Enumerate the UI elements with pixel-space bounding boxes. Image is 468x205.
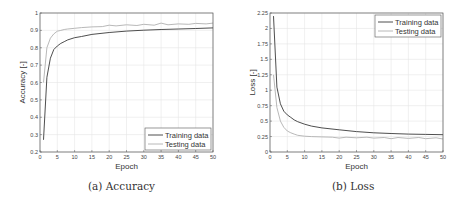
svg-text:0.75: 0.75: [257, 103, 268, 109]
svg-text:45: 45: [423, 154, 429, 160]
svg-text:40: 40: [405, 154, 411, 160]
x-axis-label: Epoch: [345, 162, 368, 171]
svg-text:0.6: 0.6: [30, 80, 38, 86]
svg-text:1.75: 1.75: [257, 41, 268, 47]
legend-entry: Testing data: [395, 27, 436, 36]
legend-entry: Training data: [165, 131, 209, 140]
svg-text:5: 5: [286, 154, 289, 160]
legend-entry: Training data: [395, 18, 439, 27]
svg-text:0: 0: [265, 149, 268, 155]
svg-text:30: 30: [141, 154, 147, 160]
svg-text:30: 30: [371, 154, 377, 160]
legend-entry: Testing data: [165, 140, 206, 149]
svg-text:0.2: 0.2: [30, 149, 38, 155]
svg-text:2.25: 2.25: [257, 10, 268, 16]
svg-text:1.5: 1.5: [260, 56, 268, 62]
accuracy-plot-area: 051015202530354045500.20.30.40.50.60.70.…: [18, 10, 216, 171]
y-axis-label: Accuracy [-]: [18, 61, 27, 103]
x-axis-label: Epoch: [115, 162, 138, 171]
svg-text:45: 45: [193, 154, 199, 160]
svg-text:10: 10: [302, 154, 308, 160]
svg-text:1: 1: [265, 87, 268, 93]
svg-text:0.9: 0.9: [30, 27, 38, 33]
svg-text:1.25: 1.25: [257, 72, 268, 78]
svg-text:1: 1: [35, 10, 38, 16]
svg-text:20: 20: [106, 154, 112, 160]
svg-text:0.4: 0.4: [30, 114, 38, 120]
svg-text:15: 15: [89, 154, 95, 160]
svg-text:10: 10: [72, 154, 78, 160]
svg-text:2: 2: [265, 25, 268, 31]
svg-text:35: 35: [388, 154, 394, 160]
svg-text:0.25: 0.25: [257, 134, 268, 140]
svg-text:0.8: 0.8: [30, 45, 38, 51]
legend: Training dataTesting data: [145, 128, 211, 150]
svg-text:0.3: 0.3: [30, 132, 38, 138]
loss-chart-panel: 0510152025303540455000.250.50.7511.251.5…: [234, 0, 468, 205]
svg-text:0.5: 0.5: [260, 118, 268, 124]
svg-text:0.5: 0.5: [30, 97, 38, 103]
svg-text:0: 0: [268, 154, 271, 160]
svg-text:0: 0: [38, 154, 41, 160]
accuracy-caption: (a) Accuracy: [88, 180, 155, 192]
loss-plot-area: 0510152025303540455000.250.50.7511.251.5…: [248, 10, 446, 171]
loss-chart: 0510152025303540455000.250.50.7511.251.5…: [234, 0, 468, 180]
svg-text:25: 25: [123, 154, 129, 160]
legend: Training dataTesting data: [375, 15, 441, 37]
accuracy-chart: 051015202530354045500.20.30.40.50.60.70.…: [0, 0, 234, 180]
svg-text:5: 5: [56, 154, 59, 160]
svg-text:50: 50: [210, 154, 216, 160]
y-axis-label: Loss [-]: [248, 69, 257, 95]
svg-text:0.7: 0.7: [30, 62, 38, 68]
accuracy-chart-panel: 051015202530354045500.20.30.40.50.60.70.…: [0, 0, 234, 205]
loss-caption: (b) Loss: [332, 180, 374, 192]
svg-text:15: 15: [319, 154, 325, 160]
svg-text:35: 35: [158, 154, 164, 160]
svg-text:25: 25: [353, 154, 359, 160]
svg-text:50: 50: [440, 154, 446, 160]
svg-text:40: 40: [175, 154, 181, 160]
svg-text:20: 20: [336, 154, 342, 160]
